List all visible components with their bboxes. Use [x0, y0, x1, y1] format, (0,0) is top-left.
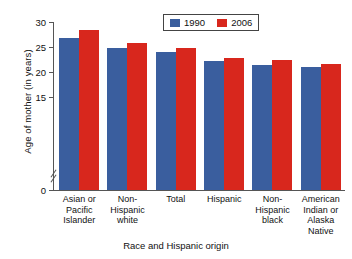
bar-chart: Age of mother (in years) 015202530 Asian…	[0, 0, 352, 259]
bar-2006[interactable]	[272, 60, 292, 190]
bar-group	[55, 14, 103, 190]
y-tick-15: 15	[49, 97, 54, 98]
x-category-label-line: American	[298, 194, 344, 205]
x-category-label-line: Islander	[56, 215, 102, 226]
x-category-label-line: Non-	[249, 194, 295, 205]
bar-2006[interactable]	[176, 48, 196, 191]
x-category-label: Hispanic	[200, 194, 248, 236]
bar-group	[248, 14, 296, 190]
bar-1990[interactable]	[156, 52, 176, 191]
x-category-label-line: Hispanic	[104, 205, 150, 216]
x-category-label-line: Alaska	[298, 215, 344, 226]
x-category-label: Total	[152, 194, 200, 236]
x-category-label-line: Non-	[104, 194, 150, 205]
bar-2006[interactable]	[127, 43, 147, 191]
x-axis-title: Race and Hispanic origin	[0, 240, 352, 251]
x-category-label-line: Total	[153, 194, 199, 205]
y-tick-20: 20	[49, 72, 54, 73]
x-category-label: AmericanIndian orAlaskaNative	[297, 194, 345, 236]
x-axis-category-labels: Asian orPacificIslanderNon-Hispanicwhite…	[55, 194, 345, 236]
x-axis-line	[53, 190, 345, 191]
x-category-label-line: Indian or	[298, 205, 344, 216]
legend: 19902006	[163, 14, 259, 31]
y-tick-30: 30	[49, 22, 54, 23]
bar-groups	[55, 14, 345, 190]
bar-group	[152, 14, 200, 190]
bar-1990[interactable]	[252, 65, 272, 191]
y-tick-label: 0	[41, 185, 46, 196]
legend-item-1990[interactable]: 1990	[170, 17, 205, 28]
bar-1990[interactable]	[107, 48, 127, 191]
x-category-label-line: Hispanic	[201, 194, 247, 205]
y-tick-label: 15	[35, 92, 46, 103]
bar-1990[interactable]	[204, 61, 224, 191]
legend-item-2006[interactable]: 2006	[217, 17, 252, 28]
bar-group	[103, 14, 151, 190]
x-category-label-line: black	[249, 215, 295, 226]
bar-2006[interactable]	[224, 58, 244, 191]
x-category-label-line: Pacific	[56, 205, 102, 216]
y-tick-25: 25	[49, 47, 54, 48]
x-category-label-line: Native	[298, 226, 344, 237]
bar-group	[297, 14, 345, 190]
x-category-label: Non-Hispanicwhite	[103, 194, 151, 236]
legend-label: 2006	[231, 17, 252, 28]
y-tick-label: 20	[35, 67, 46, 78]
bar-1990[interactable]	[301, 67, 321, 190]
bar-2006[interactable]	[79, 30, 99, 191]
x-category-label-line: Hispanic	[249, 205, 295, 216]
x-category-label-line: white	[104, 215, 150, 226]
y-tick-0: 0	[49, 190, 54, 191]
bar-2006[interactable]	[321, 64, 341, 190]
bar-group	[200, 14, 248, 190]
x-category-label-line: Asian or	[56, 194, 102, 205]
x-category-label: Non-Hispanicblack	[248, 194, 296, 236]
y-tick-label: 30	[35, 17, 46, 28]
x-category-label: Asian orPacificIslander	[55, 194, 103, 236]
legend-swatch-icon	[217, 19, 227, 27]
bar-1990[interactable]	[59, 38, 79, 190]
y-axis-title: Age of mother (in years)	[22, 22, 33, 182]
legend-swatch-icon	[170, 19, 180, 27]
plot-area: 015202530	[55, 14, 345, 191]
legend-label: 1990	[184, 17, 205, 28]
y-tick-label: 25	[35, 42, 46, 53]
